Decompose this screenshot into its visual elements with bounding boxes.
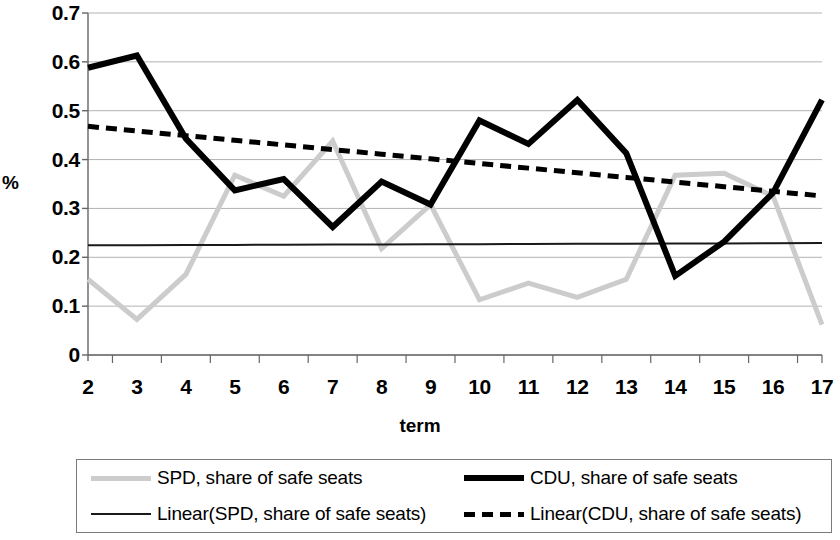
legend-item[interactable]: CDU, share of safe seats xyxy=(454,460,831,496)
y-axis-tick-label: 0.6 xyxy=(6,51,80,72)
x-axis-tick-label: 13 xyxy=(615,376,638,397)
x-axis-tick-label: 9 xyxy=(425,376,436,397)
linear-cdu-line-swatch xyxy=(460,507,526,521)
series-line-spd-share-of-safe-seats xyxy=(88,141,822,325)
legend-item-label: SPD, share of safe seats xyxy=(157,467,362,489)
chart-legend: SPD, share of safe seatsCDU, share of sa… xyxy=(76,459,832,533)
x-axis-tick-label: 17 xyxy=(811,376,834,397)
legend-item[interactable]: Linear(CDU, share of safe seats) xyxy=(454,496,831,532)
x-axis-tick-label: 11 xyxy=(518,376,539,397)
x-axis-tick-label: 7 xyxy=(327,376,338,397)
x-axis-tick-label: 5 xyxy=(229,376,240,397)
x-axis-tick-labels: 234567891011121314151617 xyxy=(0,366,840,400)
x-axis-tick-label: 16 xyxy=(762,376,785,397)
chart-page: 0.70.60.50.40.30.20.10 % 234567891011121… xyxy=(0,0,840,540)
x-axis-tick-label: 6 xyxy=(278,376,289,397)
legend-swatch-bar xyxy=(464,512,524,517)
linear-spd-line-swatch xyxy=(87,507,153,521)
legend-swatch-bar xyxy=(91,513,151,515)
legend-item-label: Linear(CDU, share of safe seats) xyxy=(530,503,801,525)
legend-item-label: Linear(SPD, share of safe seats) xyxy=(157,503,426,525)
x-axis-tick-label: 3 xyxy=(131,376,142,397)
y-axis-tick-label: 0.4 xyxy=(6,149,80,170)
cdu-line-swatch xyxy=(460,471,526,485)
spd-line-swatch xyxy=(87,471,153,485)
y-axis-tick-label: 0.1 xyxy=(6,295,80,316)
legend-item-label: CDU, share of safe seats xyxy=(530,467,737,489)
y-axis-title: % xyxy=(2,172,19,194)
chart-plot-area: 0.70.60.50.40.30.20.10 % 234567891011121… xyxy=(0,0,840,450)
x-axis-tick-label: 8 xyxy=(376,376,387,397)
y-axis-tick-label: 0.5 xyxy=(6,100,80,121)
y-axis-tick-label: 0.3 xyxy=(6,197,80,218)
legend-swatch-bar xyxy=(464,475,524,481)
x-axis-tick-label: 12 xyxy=(566,376,589,397)
legend-item[interactable]: SPD, share of safe seats xyxy=(77,460,454,496)
x-axis-tick-label: 2 xyxy=(82,376,93,397)
x-axis-tick-label: 10 xyxy=(468,376,491,397)
x-axis-tick-label: 4 xyxy=(180,376,191,397)
y-axis-tick-label: 0.2 xyxy=(6,246,80,267)
x-axis-tick-label: 15 xyxy=(713,376,736,397)
series-line-linear-spd-share-of-safe-seats xyxy=(88,243,822,245)
x-axis-tick-label: 14 xyxy=(664,376,687,397)
y-axis-tick-label: 0.7 xyxy=(6,2,80,23)
y-axis-tick-label: 0 xyxy=(6,344,80,365)
legend-swatch-bar xyxy=(91,476,151,481)
x-axis-title: term xyxy=(0,415,840,437)
legend-item[interactable]: Linear(SPD, share of safe seats) xyxy=(77,496,454,532)
